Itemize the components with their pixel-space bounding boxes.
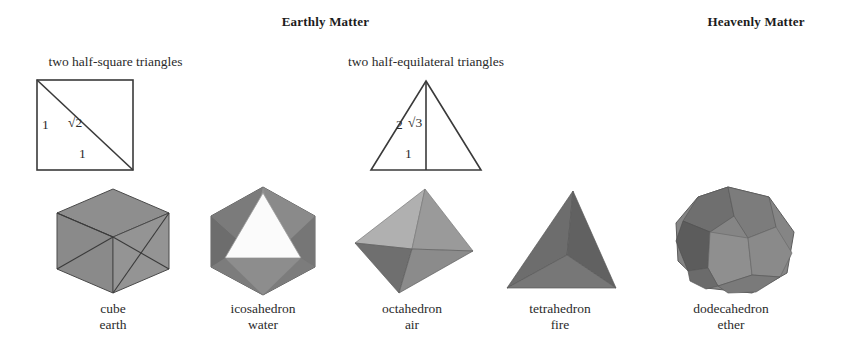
solid-tetrahedron: tetrahedron fire bbox=[485, 183, 635, 334]
tetrahedron-icon bbox=[485, 183, 635, 298]
square-label-base: 1 bbox=[79, 147, 86, 161]
solid-name-octahedron: octahedron bbox=[337, 301, 487, 317]
caption-half-equilateral-triangles: two half-equilateral triangles bbox=[318, 54, 534, 70]
square-label-left-side: 1 bbox=[42, 118, 49, 132]
solid-name-dodecahedron: dodecahedron bbox=[656, 301, 806, 317]
solid-name-cube: cube bbox=[38, 301, 188, 317]
icosahedron-icon bbox=[188, 183, 338, 298]
solid-name-tetrahedron: tetrahedron bbox=[485, 301, 635, 317]
solid-cube: cube earth bbox=[38, 183, 188, 334]
triangle-label-median: √3 bbox=[408, 116, 422, 130]
solid-name-icosahedron: icosahedron bbox=[188, 301, 338, 317]
solid-element-tetrahedron: fire bbox=[485, 317, 635, 333]
solid-element-icosahedron: water bbox=[188, 317, 338, 333]
heading-earthly-matter: Earthly Matter bbox=[0, 14, 651, 30]
solid-icosahedron: icosahedron water bbox=[188, 183, 338, 334]
equilateral-triangle-figure bbox=[360, 72, 495, 177]
triangle-label-base: 1 bbox=[405, 147, 412, 161]
square-label-diagonal: √2 bbox=[68, 116, 82, 130]
solid-octahedron: octahedron air bbox=[337, 183, 487, 334]
cube-icon bbox=[38, 183, 188, 298]
triangle-label-hypotenuse: 2 bbox=[396, 118, 403, 132]
solid-dodecahedron: dodecahedron ether bbox=[656, 183, 806, 334]
caption-half-square-triangles: two half-square triangles bbox=[8, 54, 223, 70]
solid-element-cube: earth bbox=[38, 317, 188, 333]
dodecahedron-icon bbox=[656, 183, 806, 298]
octahedron-icon bbox=[337, 183, 487, 298]
solid-element-dodecahedron: ether bbox=[656, 317, 806, 333]
heading-heavenly-matter: Heavenly Matter bbox=[651, 14, 861, 30]
octahedron-face-lower-right bbox=[399, 249, 473, 293]
solid-element-octahedron: air bbox=[337, 317, 487, 333]
